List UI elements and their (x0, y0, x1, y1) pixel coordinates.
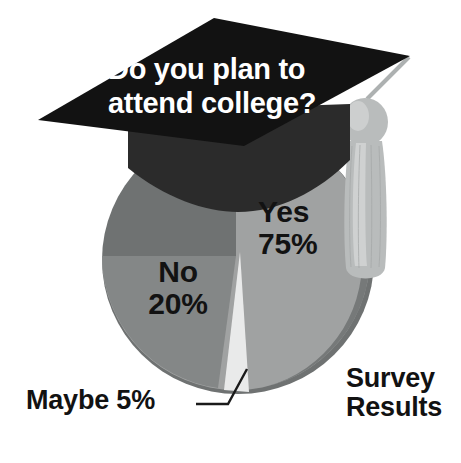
pie-label-yes: Yes 75% (258, 196, 317, 261)
pie-label-maybe: Maybe 5% (26, 386, 155, 415)
cap-question-text: Do you plan to attend college? (108, 53, 358, 120)
pie-label-no: No 20% (128, 256, 228, 321)
survey-results-caption: Survey Results (346, 364, 454, 422)
survey-pie-figure: Do you plan to attend college? Yes 75% N… (0, 0, 461, 463)
tassel-fringe-highlight (353, 143, 367, 266)
